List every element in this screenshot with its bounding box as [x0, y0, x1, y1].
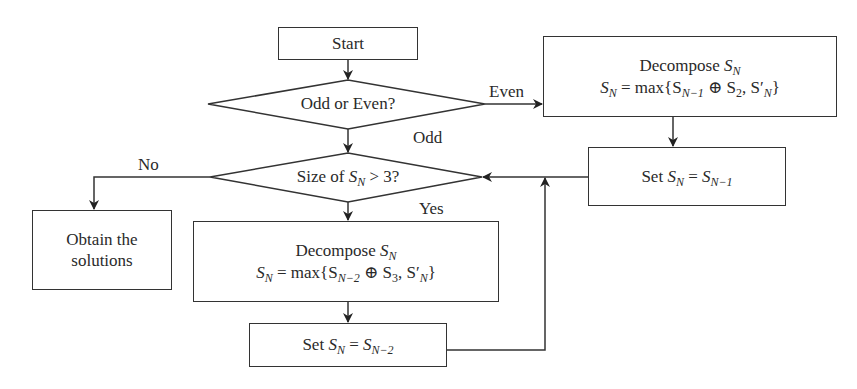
- set-odd-label: Set SN = SN−2: [302, 334, 393, 355]
- start-node: Start: [278, 27, 418, 60]
- set-even-node: Set SN = SN−1: [588, 147, 786, 206]
- decompose-even-title: Decompose SN: [639, 55, 740, 76]
- decompose-odd-node: Decompose SN SN = max{SN−2 ⊕ S3, S′N}: [193, 221, 499, 302]
- decompose-even-node: Decompose SN SN = max{SN−1 ⊕ S2, S′N}: [543, 36, 837, 117]
- edge-label-yes: Yes: [419, 199, 444, 219]
- decompose-even-formula: SN = max{SN−1 ⊕ S2, S′N}: [600, 77, 780, 98]
- obtain-solutions-node: Obtain the solutions: [32, 210, 172, 290]
- set-odd-node: Set SN = SN−2: [249, 323, 447, 367]
- edge-label-odd: Odd: [413, 128, 442, 148]
- start-label: Start: [332, 33, 364, 54]
- decision-size: Size of SN > 3?: [248, 163, 448, 191]
- decompose-odd-title: Decompose SN: [295, 240, 396, 261]
- edge-label-even: Even: [489, 82, 524, 102]
- decision-odd-even-label: Odd or Even?: [301, 93, 395, 114]
- set-even-label: Set SN = SN−1: [641, 166, 732, 187]
- edge-label-no: No: [138, 155, 159, 175]
- decision-size-label: Size of SN > 3?: [297, 166, 400, 187]
- decompose-odd-formula: SN = max{SN−2 ⊕ S3, S′N}: [256, 262, 436, 283]
- decision-odd-even: Odd or Even?: [248, 90, 448, 118]
